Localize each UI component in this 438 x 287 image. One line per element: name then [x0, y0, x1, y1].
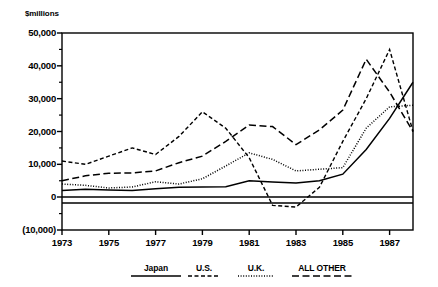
y-axis-tick-label: 20,000 [0, 126, 56, 137]
y-axis-tick-label: 50,000 [0, 27, 56, 38]
y-axis-tick-label: 10,000 [0, 158, 56, 169]
x-axis-tick-label: 1981 [227, 237, 271, 248]
y-axis-tick-label: (10,000) [0, 224, 56, 235]
x-axis-tick-label: 1979 [180, 237, 224, 248]
chart-figure: $millions 50,00040,00030,00020,00010,000… [0, 0, 438, 287]
x-axis-tick-label: 1975 [87, 237, 131, 248]
y-axis-tick-label: 30,000 [0, 93, 56, 104]
series-line-u-k [62, 105, 413, 188]
legend-label-all-other: ALL OTHER [277, 263, 367, 273]
x-axis-tick-label: 1985 [321, 237, 365, 248]
y-axis-tick-label: 0 [0, 191, 56, 202]
x-axis-tick-label: 1973 [40, 237, 84, 248]
series-line-all-other [62, 59, 413, 180]
x-axis-tick-label: 1977 [134, 237, 178, 248]
x-axis-tick-label: 1983 [274, 237, 318, 248]
x-axis-tick-label: 1987 [368, 237, 412, 248]
series-line-japan [62, 82, 413, 190]
plot-frame [62, 33, 413, 230]
y-axis-tick-label: 40,000 [0, 60, 56, 71]
